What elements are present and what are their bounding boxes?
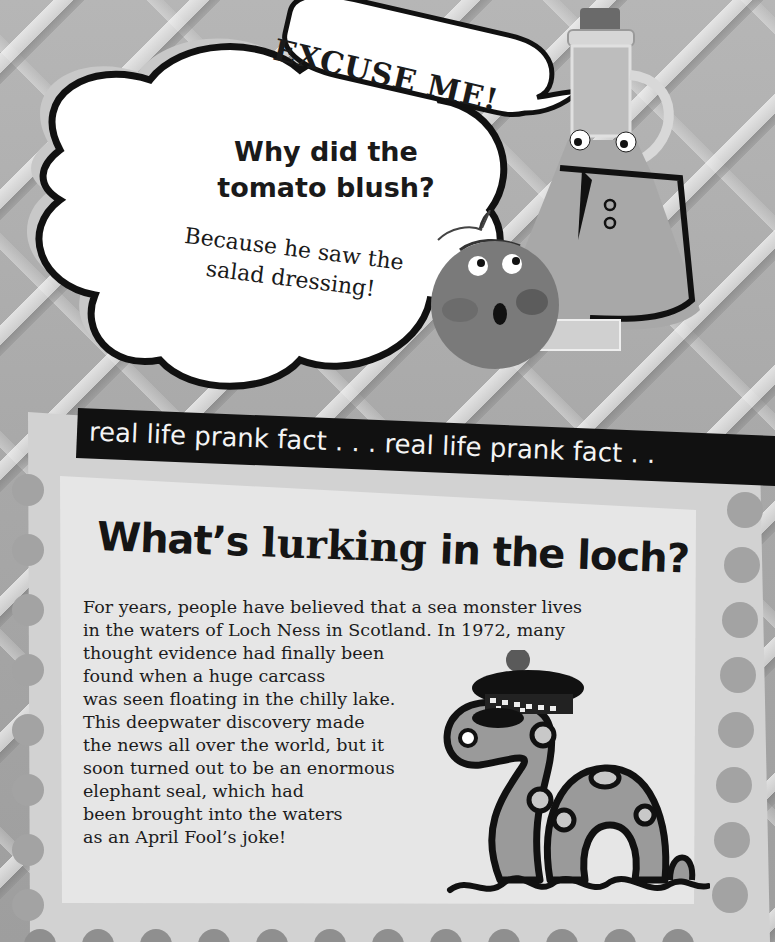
fact-title-suffix: in the loch? xyxy=(439,526,690,582)
fact-title-prefix: What’s xyxy=(96,513,249,565)
joke-question-line: tomato blush? xyxy=(206,170,446,206)
tomato-illustration xyxy=(420,210,570,370)
loch-ness-monster-illustration xyxy=(440,650,710,910)
joke-question-line: Why did the xyxy=(206,134,446,170)
fact-body-line: For years, people have believed that a s… xyxy=(83,596,683,619)
fact-body-line: in the waters of Loch Ness in Scotland. … xyxy=(83,619,683,642)
joke-question: Why did the tomato blush? xyxy=(206,134,446,206)
fact-title-emphasis: lurking xyxy=(261,518,428,571)
